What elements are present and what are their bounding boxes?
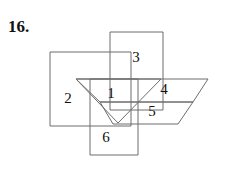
shape-top-square bbox=[110, 32, 163, 110]
region-label-1: 1 bbox=[107, 85, 115, 101]
shape-lower-parallelogram bbox=[100, 102, 193, 124]
region-label-4: 4 bbox=[160, 81, 168, 97]
region-label-5: 5 bbox=[148, 103, 156, 119]
region-label-6: 6 bbox=[102, 129, 110, 145]
region-label-3: 3 bbox=[132, 49, 140, 65]
region-label-2: 2 bbox=[64, 90, 72, 106]
figure-container: 16. 1 2 3 4 5 6 bbox=[0, 0, 229, 188]
geometry-figure: 1 2 3 4 5 6 bbox=[0, 0, 229, 188]
